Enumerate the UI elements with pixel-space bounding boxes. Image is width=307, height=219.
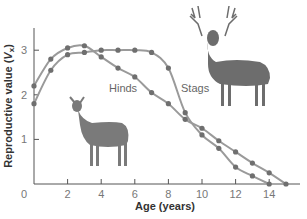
x-tick-label: 12	[229, 188, 241, 200]
data-point	[99, 54, 104, 59]
data-point	[250, 160, 255, 165]
data-point	[82, 43, 87, 48]
data-point	[216, 138, 221, 143]
data-point	[216, 146, 221, 151]
x-tick-label: 8	[165, 188, 171, 200]
y-ticks: 123	[21, 44, 39, 145]
data-point	[267, 181, 272, 186]
series-label-stags: Stags	[181, 82, 210, 94]
data-point	[233, 164, 238, 169]
data-point	[233, 149, 238, 154]
x-tick-label: 2	[65, 188, 71, 200]
x-axis-title: Age (years)	[135, 200, 195, 212]
data-point	[65, 52, 70, 57]
reproductive-value-chart: 123 02468101214 Age (years) Reproductive…	[0, 0, 307, 219]
x-tick-label: 6	[132, 188, 138, 200]
data-point	[115, 65, 120, 70]
data-point	[115, 48, 120, 53]
data-point	[82, 50, 87, 55]
data-point	[99, 48, 104, 53]
data-point	[166, 101, 171, 106]
data-point	[132, 74, 137, 79]
y-axis-title: Reproductive value (Vx)	[2, 44, 16, 168]
y-tick-label: 1	[21, 133, 27, 145]
x-tick-label: 10	[196, 188, 208, 200]
data-point	[199, 132, 204, 137]
data-point	[183, 110, 188, 115]
series-label-hinds: Hinds	[109, 82, 138, 94]
x-tick-label: 14	[263, 188, 275, 200]
data-point	[65, 45, 70, 50]
data-point	[132, 48, 137, 53]
data-point	[48, 57, 53, 62]
data-point	[149, 50, 154, 55]
y-tick-label: 2	[21, 89, 27, 101]
data-point	[183, 117, 188, 122]
data-point	[31, 101, 36, 106]
hind-illustration-icon	[70, 97, 128, 166]
data-point	[199, 126, 204, 131]
data-point	[267, 170, 272, 175]
x-tick-label: 4	[98, 188, 104, 200]
x-ticks: 02468101214	[21, 179, 275, 200]
data-point	[31, 83, 36, 88]
x-tick-label: 0	[21, 188, 27, 200]
data-point	[149, 90, 154, 95]
data-point	[283, 181, 288, 186]
data-point	[48, 68, 53, 73]
y-tick-label: 3	[21, 44, 27, 56]
data-point	[166, 65, 171, 70]
data-point	[250, 173, 255, 178]
